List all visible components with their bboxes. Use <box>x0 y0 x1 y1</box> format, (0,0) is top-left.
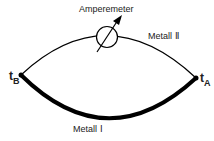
junction-a <box>194 76 199 81</box>
amperemeter-label: Amperemeter <box>79 4 134 14</box>
t-a-label: tA <box>200 71 211 88</box>
metal-1-wire <box>21 75 196 118</box>
thermocouple-diagram: Amperemeter Metall Ⅱ Metall Ⅰ tB tA <box>0 0 214 141</box>
metal-2-label: Metall Ⅱ <box>148 31 179 41</box>
metal-1-label: Metall Ⅰ <box>73 124 103 134</box>
amperemeter-icon <box>97 15 123 52</box>
t-b-label: tB <box>9 69 20 86</box>
